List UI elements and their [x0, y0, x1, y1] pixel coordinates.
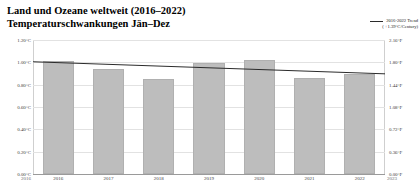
x-axis-range-end: 2023: [387, 176, 397, 181]
x-tick-label-2021: 2021: [305, 176, 315, 181]
y-tick-label-left: 0.40°C: [6, 127, 31, 132]
plot-area: 1.20°C1.00°C0.80°C0.60°C0.40°C0.20°C0.00…: [33, 40, 385, 174]
trend-line: [33, 40, 385, 174]
x-tick-label-2020: 2020: [254, 176, 264, 181]
legend-trend-rate: ( +1.39°C/Century): [370, 24, 418, 30]
y-tick-label-left: 1.00°C: [6, 60, 31, 65]
x-tick-label-2018: 2018: [154, 176, 164, 181]
y-tick-label-right: 0.36°F: [389, 149, 419, 154]
y-tick-label-left: 0.60°C: [6, 105, 31, 110]
y-tick-label-right: 2.16°F: [389, 38, 419, 43]
y-tick-label-left: 0.20°C: [6, 149, 31, 154]
trend-line-swatch-icon: [370, 21, 383, 22]
trend-line-path: [33, 62, 385, 74]
gridline: [33, 174, 385, 175]
y-tick-label-right: 1.44°F: [389, 82, 419, 87]
y-tick-label-left: 1.20°C: [6, 38, 31, 43]
y-tick-label-right: 0.72°F: [389, 127, 419, 132]
x-axis-labels: 201620172018201920202021202220162023: [33, 176, 385, 190]
chart-title-block: Land und Ozeane weltweit (2016–2022) Tem…: [7, 5, 297, 30]
y-tick-label-right: 1.08°F: [389, 105, 419, 110]
x-tick-label-2022: 2022: [355, 176, 365, 181]
y-tick-label-left: 0.80°C: [6, 82, 31, 87]
x-axis-range-start: 2016: [21, 176, 31, 181]
chart-subtitle: Temperaturschwankungen Jän–Dez: [7, 18, 297, 31]
chart-legend: 2016-2022 Trend ( +1.39°C/Century): [370, 18, 418, 30]
temperature-anomaly-chart: Land und Ozeane weltweit (2016–2022) Tem…: [0, 0, 420, 195]
x-tick-label-2017: 2017: [103, 176, 113, 181]
x-tick-label-2019: 2019: [204, 176, 214, 181]
y-tick-label-right: 1.80°F: [389, 60, 419, 65]
page-title: Land und Ozeane weltweit (2016–2022): [7, 5, 297, 18]
x-tick-label-2016: 2016: [53, 176, 63, 181]
